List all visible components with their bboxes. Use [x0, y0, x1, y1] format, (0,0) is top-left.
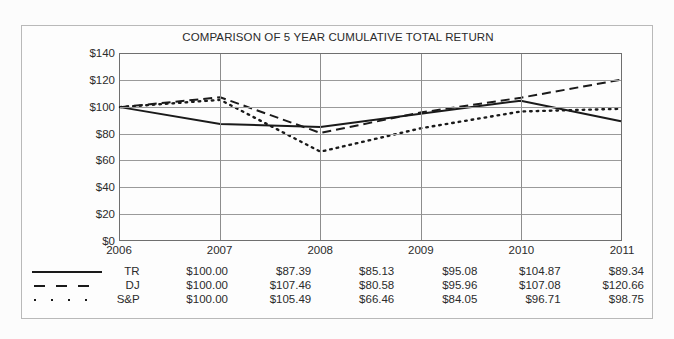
- y-axis-tick-label: $80: [69, 128, 115, 140]
- x-axis-tick-label: 2006: [106, 244, 132, 256]
- table-cell-value: $85.13: [311, 264, 394, 278]
- x-axis-tick-label: 2011: [610, 244, 635, 256]
- gridline-horizontal: [120, 187, 621, 188]
- series-name-label: TR: [110, 264, 145, 278]
- y-axis-tick-label: $40: [69, 181, 115, 193]
- x-axis-tick-label: 2010: [509, 244, 535, 256]
- y-axis-tick-label: $60: [69, 154, 115, 166]
- y-axis-tick-label: $120: [69, 74, 115, 86]
- chart-card: COMPARISON OF 5 YEAR CUMULATIVE TOTAL RE…: [21, 25, 653, 319]
- x-axis-tick-label: 2008: [307, 244, 333, 256]
- legend-swatch-cell: [32, 264, 110, 278]
- gridline-horizontal: [120, 160, 621, 161]
- table-cell-value: $87.39: [228, 264, 311, 278]
- table-cell-value: $100.00: [145, 264, 228, 278]
- gridline-vertical: [521, 54, 522, 240]
- table-cell-value: $89.34: [561, 264, 644, 278]
- table-cell-value: $107.08: [477, 278, 560, 292]
- gridline-horizontal: [120, 80, 621, 81]
- table-cell-value: $98.75: [561, 292, 644, 306]
- gridline-horizontal: [120, 214, 621, 215]
- gridline-vertical: [320, 54, 321, 240]
- table-cell-value: $104.87: [477, 264, 560, 278]
- table-row: DJ$100.00$107.46$80.58$95.96$107.08$120.…: [32, 278, 644, 292]
- table-cell-value: $66.46: [311, 292, 394, 306]
- table-cell-value: $107.46: [228, 278, 311, 292]
- x-axis: 200620072008200920102011: [119, 244, 622, 260]
- y-axis-tick-label: $100: [69, 101, 115, 113]
- chart-title: COMPARISON OF 5 YEAR CUMULATIVE TOTAL RE…: [22, 31, 654, 43]
- y-axis-tick-label: $20: [69, 208, 115, 220]
- gridline-vertical: [220, 54, 221, 240]
- series-name-label: DJ: [110, 278, 145, 292]
- table-cell-value: $95.08: [394, 264, 477, 278]
- legend-dashed-line-icon: [32, 281, 102, 290]
- x-axis-tick-label: 2009: [408, 244, 434, 256]
- x-axis-tick-label: 2007: [207, 244, 233, 256]
- legend-swatch-cell: [32, 278, 110, 292]
- legend-swatch-cell: [32, 292, 110, 306]
- screenshot-root: COMPARISON OF 5 YEAR CUMULATIVE TOTAL RE…: [0, 0, 674, 339]
- y-axis: $0$20$40$60$80$100$120$140: [63, 53, 115, 241]
- data-table: TR$100.00$87.39$85.13$95.08$104.87$89.34…: [32, 264, 644, 306]
- gridline-horizontal: [120, 134, 621, 135]
- series-name-label: S&P: [110, 292, 145, 306]
- table-cell-value: $95.96: [394, 278, 477, 292]
- legend-dotted-line-icon: [32, 295, 102, 304]
- legend-solid-line-icon: [32, 267, 102, 276]
- table-cell-value: $105.49: [228, 292, 311, 306]
- plot-area: [119, 53, 622, 241]
- table-cell-value: $100.00: [145, 292, 228, 306]
- table-row: S&P$100.00$105.49$66.46$84.05$96.71$98.7…: [32, 292, 644, 306]
- gridline-vertical: [421, 54, 422, 240]
- table-cell-value: $100.00: [145, 278, 228, 292]
- table-row: TR$100.00$87.39$85.13$95.08$104.87$89.34: [32, 264, 644, 278]
- gridline-horizontal: [120, 107, 621, 108]
- y-axis-tick-label: $140: [69, 47, 115, 59]
- data-table-body: TR$100.00$87.39$85.13$95.08$104.87$89.34…: [32, 264, 644, 306]
- series-lines: [120, 54, 621, 240]
- table-cell-value: $84.05: [394, 292, 477, 306]
- table-cell-value: $80.58: [311, 278, 394, 292]
- table-cell-value: $96.71: [477, 292, 560, 306]
- table-cell-value: $120.66: [561, 278, 644, 292]
